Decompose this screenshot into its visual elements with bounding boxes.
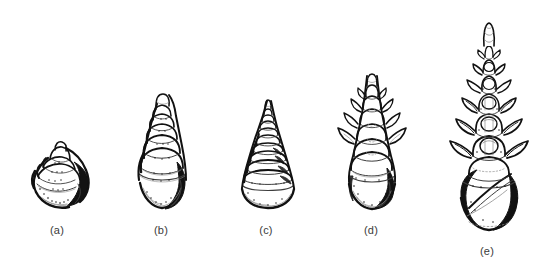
specimen-e	[447, 10, 531, 244]
specimen-b-drawing	[125, 88, 199, 222]
caption-c: (c)	[259, 224, 272, 236]
caption-b: (b)	[154, 224, 168, 236]
caption-e: (e)	[480, 245, 494, 257]
figure-plate: (a) (b) (c) (d) (e)	[0, 0, 554, 272]
specimen-c	[230, 88, 306, 222]
specimen-d-drawing	[332, 60, 412, 222]
caption-d: (d)	[364, 224, 378, 236]
caption-a: (a)	[50, 224, 64, 236]
specimen-d	[332, 60, 412, 222]
specimen-b	[125, 88, 199, 222]
specimen-a-drawing	[22, 132, 98, 216]
specimen-e-drawing	[447, 10, 531, 244]
specimen-a	[22, 132, 98, 216]
specimen-c-drawing	[230, 88, 306, 222]
